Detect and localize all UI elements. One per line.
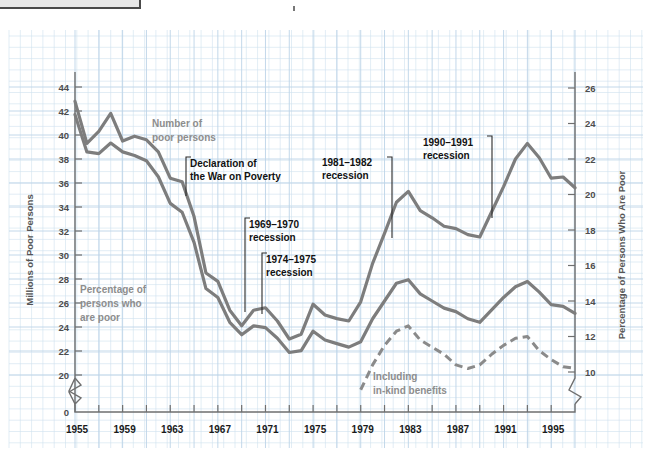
grid-minor xyxy=(9,30,643,448)
y-tick-label: 38 xyxy=(58,154,69,165)
annotation-recession-1981-1982-line2: recession xyxy=(322,170,369,181)
y2-tick-label: 18 xyxy=(585,225,596,236)
percentage-poor-label: Percentage of xyxy=(80,284,147,295)
y-tick-label: 32 xyxy=(58,226,69,237)
annotation-recession-1974-1975-line2: recession xyxy=(266,267,313,278)
y-tick-label: 30 xyxy=(58,250,69,261)
annotation-recession-1969-1970-line2: recession xyxy=(249,232,296,243)
in-kind-benefits-label: in-kind benefits xyxy=(373,385,447,396)
y-axis-title: Millions of Poor Persons xyxy=(24,194,35,305)
y-tick-label: 20 xyxy=(58,370,69,381)
y2-tick-label: 16 xyxy=(585,260,596,271)
poverty-chart: 1955195919631967197119751979198319871991… xyxy=(0,0,651,460)
x-tick-label: 1959 xyxy=(113,424,136,435)
y2-tick-label: 12 xyxy=(585,331,596,342)
x-tick-label: 1995 xyxy=(542,424,565,435)
y-tick-label: 24 xyxy=(58,322,69,333)
y2-tick-label: 10 xyxy=(585,367,596,378)
y-tick-label: 34 xyxy=(58,202,69,213)
x-tick-label: 1967 xyxy=(209,424,232,435)
percentage-poor-label: are poor xyxy=(80,312,120,323)
series-percentage-of-persons-who-are-poor xyxy=(75,115,575,353)
annotation-recession-1974-1975: 1974–1975 xyxy=(266,254,316,265)
axes xyxy=(69,72,581,412)
y2-tick-label: 24 xyxy=(585,118,596,129)
x-tick-label: 1975 xyxy=(304,424,327,435)
annotation-recession-1990-1991-line2: recession xyxy=(423,150,470,161)
annotation-recession-1981-1982: 1981–1982 xyxy=(322,157,372,168)
in-kind-benefits-label: Including xyxy=(373,371,417,382)
y2-tick-label: 20 xyxy=(585,189,596,200)
x-tick-label: 1963 xyxy=(161,424,184,435)
annotation-declaration-war-on-poverty: Declaration of xyxy=(190,158,257,169)
y-tick-label: 22 xyxy=(58,346,69,357)
y-tick-label: 0 xyxy=(64,407,69,418)
y-tick-label: 42 xyxy=(58,106,69,117)
x-tick-label: 1983 xyxy=(399,424,422,435)
y-tick-label: 36 xyxy=(58,178,69,189)
y-tick-label: 40 xyxy=(58,130,69,141)
tick-labels: 1955195919631967197119751979198319871991… xyxy=(58,82,596,436)
x-tick-label: 1987 xyxy=(447,424,470,435)
x-tick-label: 1991 xyxy=(494,424,517,435)
annotation-recession-1990-1991: 1990–1991 xyxy=(423,137,473,148)
y-tick-label: 44 xyxy=(58,82,69,93)
number-of-poor-persons-label: poor persons xyxy=(152,132,216,143)
annotation-declaration-war-on-poverty-line2: the War on Poverty xyxy=(190,171,281,182)
tick-marks xyxy=(75,87,575,412)
y2-axis-title: Percentage of Persons Who Are Poor xyxy=(616,170,627,339)
data-series xyxy=(75,101,575,389)
y2-tick-label: 22 xyxy=(585,154,596,165)
percentage-poor-label: persons who xyxy=(80,298,142,309)
chart-canvas: 1955195919631967197119751979198319871991… xyxy=(0,0,651,460)
x-tick-label: 1955 xyxy=(66,424,89,435)
x-tick-label: 1971 xyxy=(256,424,279,435)
x-tick-label: 1979 xyxy=(352,424,375,435)
number-of-poor-persons-label: Number of xyxy=(152,118,203,129)
y-tick-label: 28 xyxy=(58,274,69,285)
y2-tick-label: 14 xyxy=(585,296,596,307)
annotation-recession-1969-1970: 1969–1970 xyxy=(249,219,299,230)
y2-tick-label: 26 xyxy=(585,83,596,94)
y-tick-label: 26 xyxy=(58,298,69,309)
